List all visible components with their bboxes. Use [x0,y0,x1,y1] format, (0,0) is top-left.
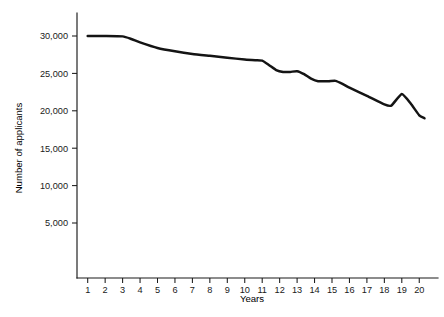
y-axis-tick-labels: 5,00010,00015,00020,00025,00030,000 [40,31,68,228]
line-chart: 5,00010,00015,00020,00025,00030,000 1234… [0,0,444,317]
x-tick-label: 1 [85,285,90,295]
y-axis-title: Number of applicants [13,102,24,193]
x-tick-label: 18 [379,285,389,295]
x-tick-label: 9 [225,285,230,295]
x-tick-label: 12 [275,285,285,295]
x-tick-label: 16 [344,285,354,295]
y-tick-label: 25,000 [40,69,68,79]
x-axis-ticks [88,278,420,283]
x-tick-label: 7 [190,285,195,295]
y-axis-ticks [72,36,77,223]
x-tick-label: 15 [327,285,337,295]
y-tick-label: 10,000 [40,181,68,191]
y-tick-label: 20,000 [40,106,68,116]
x-tick-label: 4 [137,285,142,295]
x-tick-label: 6 [172,285,177,295]
y-tick-label: 5,000 [45,218,68,228]
chart-container: 5,00010,00015,00020,00025,00030,000 1234… [0,0,444,317]
x-tick-label: 13 [292,285,302,295]
y-tick-label: 30,000 [40,31,68,41]
x-tick-label: 17 [362,285,372,295]
x-tick-label: 19 [397,285,407,295]
x-axis-title: Years [240,293,264,304]
x-tick-label: 8 [207,285,212,295]
series-group [88,36,425,118]
x-tick-label: 20 [414,285,424,295]
x-tick-label: 5 [155,285,160,295]
x-tick-label: 3 [120,285,125,295]
y-tick-label: 15,000 [40,144,68,154]
applicants-line-series [88,36,425,118]
x-tick-label: 14 [309,285,319,295]
x-tick-label: 2 [103,285,108,295]
axes-group [77,13,438,278]
